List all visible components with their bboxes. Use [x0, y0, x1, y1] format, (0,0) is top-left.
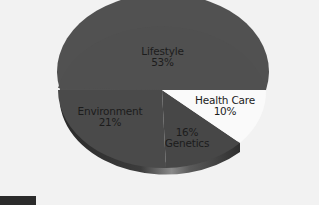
label-lifestyle: Lifestyle 53%	[140, 46, 185, 68]
corner-dark-tab	[0, 196, 36, 205]
slice-environment	[58, 90, 166, 168]
label-environment: Environment 21%	[75, 106, 145, 128]
label-environment-pct: 21%	[75, 117, 145, 128]
label-health-care: Health Care 10%	[190, 95, 260, 117]
label-genetics: 16% Genetics	[162, 127, 212, 149]
label-genetics-name: Genetics	[162, 138, 212, 149]
pie-chart	[0, 0, 319, 205]
label-health-care-pct: 10%	[190, 106, 260, 117]
label-lifestyle-pct: 53%	[140, 57, 185, 68]
